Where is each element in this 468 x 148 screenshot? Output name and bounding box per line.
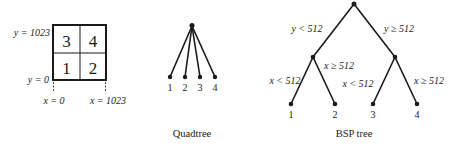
quadtree-leaf-node bbox=[168, 75, 172, 79]
bsp-edge-right-left bbox=[373, 57, 395, 104]
bsp-caption: BSP tree bbox=[336, 128, 373, 139]
cell-1: 1 bbox=[62, 59, 71, 78]
bsp-edge-label: y < 512 bbox=[290, 23, 322, 34]
bsp-edge-label: x ≥ 512 bbox=[323, 60, 354, 71]
bsp-internal-node bbox=[311, 55, 316, 60]
bsp-leaf-label: 2 bbox=[333, 109, 338, 120]
quadtree: 1 2 3 4 Quadtree bbox=[168, 23, 218, 139]
x-0-label: x = 0 bbox=[42, 95, 64, 106]
bsp-tree: y < 512 y ≥ 512 x < 512 x ≥ 512 x < 512 … bbox=[268, 2, 444, 140]
bsp-edge-label: x ≥ 512 bbox=[413, 75, 444, 86]
x-1023-label: x = 1023 bbox=[89, 95, 126, 106]
cell-2: 2 bbox=[89, 59, 98, 78]
quadtree-leaf-label: 3 bbox=[198, 82, 203, 93]
quadtree-leaf-node bbox=[213, 75, 217, 79]
quadtree-leaf-label: 4 bbox=[213, 82, 218, 93]
bsp-leaf-node bbox=[289, 102, 294, 107]
diagram-canvas: 3 4 1 2 y = 1023 y = 0 x = 0 x = 1023 1 … bbox=[0, 0, 468, 148]
y-1023-label: y = 1023 bbox=[13, 27, 50, 38]
bsp-leaf-label: 3 bbox=[371, 109, 376, 120]
bsp-internal-node bbox=[393, 55, 398, 60]
bsp-leaf-node bbox=[415, 102, 420, 107]
quadtree-leaf-label: 2 bbox=[183, 82, 188, 93]
bsp-leaf-node bbox=[371, 102, 376, 107]
cell-3: 3 bbox=[62, 32, 71, 51]
quad-grid: 3 4 1 2 y = 1023 y = 0 x = 0 x = 1023 bbox=[13, 25, 126, 106]
bsp-leaf-label: 4 bbox=[415, 109, 420, 120]
quadtree-leaf-node bbox=[183, 75, 187, 79]
quadtree-leaf-node bbox=[198, 75, 202, 79]
bsp-edge-label: y ≥ 512 bbox=[383, 23, 414, 34]
bsp-edge-label: x < 512 bbox=[341, 78, 373, 89]
quadtree-caption: Quadtree bbox=[173, 128, 212, 139]
bsp-root-node bbox=[352, 2, 357, 7]
quadtree-leaf-label: 1 bbox=[168, 82, 173, 93]
bsp-edge-label: x < 512 bbox=[268, 75, 300, 86]
bsp-leaf-label: 1 bbox=[289, 109, 294, 120]
y-0-label: y = 0 bbox=[27, 74, 49, 85]
quadtree-root-node bbox=[190, 23, 195, 28]
cell-4: 4 bbox=[89, 32, 98, 51]
bsp-leaf-node bbox=[333, 102, 338, 107]
